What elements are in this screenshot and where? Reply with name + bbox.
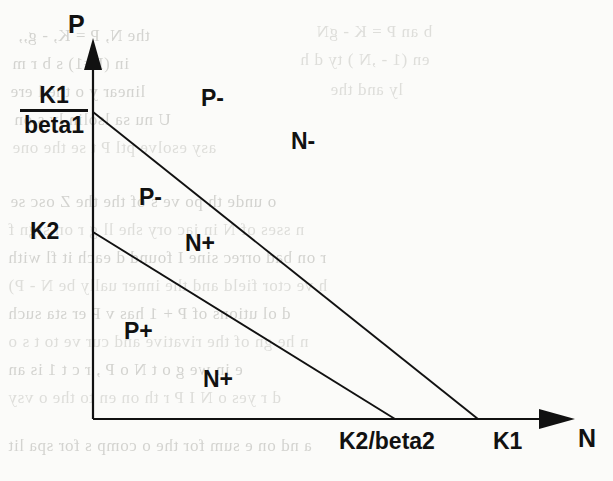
plot-canvas [0, 0, 613, 481]
y-axis-label: P [68, 10, 85, 39]
region-sign-label: P+ [124, 318, 153, 345]
region-sign-label: N+ [203, 366, 233, 393]
x-axis-arrowhead [539, 409, 575, 429]
region-sign-label: N+ [185, 230, 215, 257]
x-tick-k1: K1 [493, 428, 522, 455]
fraction-numerator: K1 [20, 83, 88, 108]
fraction-denominator: beta1 [20, 113, 88, 138]
region-sign-label: P- [139, 184, 162, 211]
y-axis-arrowhead [84, 38, 102, 70]
x-axis-label: N [578, 424, 596, 453]
P-nullcline [93, 112, 478, 419]
x-tick-k2-over-beta2: K2/beta2 [339, 428, 435, 455]
region-sign-label: P- [201, 85, 224, 112]
region-sign-label: N- [291, 128, 315, 155]
phase-plane-figure: the N, P = K, - g,,b an P = K - gNin (P=… [0, 0, 613, 481]
y-tick-k2: K2 [30, 218, 59, 245]
y-tick-k1-over-beta1: K1 beta1 [20, 83, 88, 138]
